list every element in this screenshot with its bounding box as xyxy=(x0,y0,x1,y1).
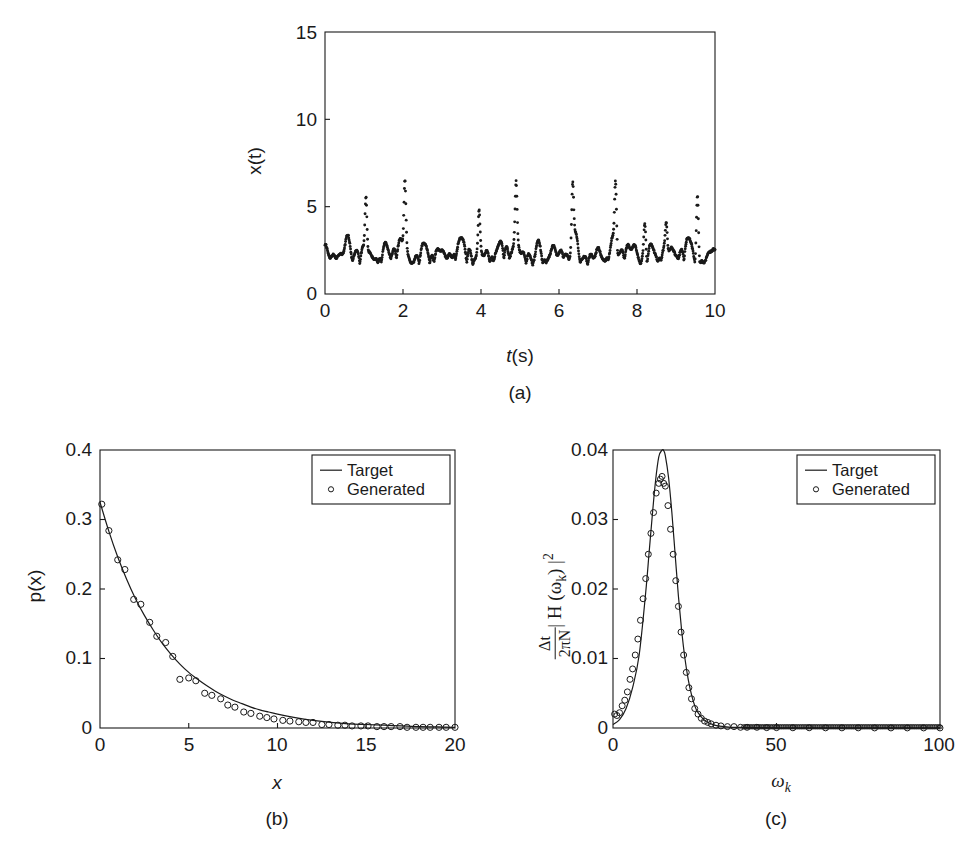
panel-a-plot-area xyxy=(325,32,715,294)
panel-b-xaxis-title: x xyxy=(222,772,332,794)
svg-text:Target: Target xyxy=(347,461,393,479)
panel-a-caption: (a) xyxy=(440,382,600,404)
panel-b-yaxis-title: p(x) xyxy=(24,526,46,646)
panel-a-xtick-10: 10 xyxy=(704,300,725,322)
panel-b-xtick-0: 0 xyxy=(95,734,106,756)
panel-c-yaxis-fraction-numerator: Δt xyxy=(537,628,556,660)
panel-a-ytick-0: 0 xyxy=(272,283,317,305)
figure-canvas: 0 5 10 15 0 2 4 6 8 10 t(s) x(t) (a) Tar… xyxy=(0,0,965,846)
panel-b-ytick-0.2: 0.2 xyxy=(40,578,92,600)
panel-c-yaxis-magnitude-open: | H (ω xyxy=(543,582,564,628)
panel-c-ytick-0: 0 xyxy=(543,717,608,739)
panel-a-xtick-2: 2 xyxy=(398,300,409,322)
panel-b-xtick-10: 10 xyxy=(266,734,287,756)
panel-c-xtick-50: 50 xyxy=(765,734,786,756)
panel-c-ytick-0.04: 0.04 xyxy=(543,439,608,461)
svg-text:Target: Target xyxy=(832,461,878,479)
panel-a-xaxis-title-unit: (s) xyxy=(512,345,534,366)
panel-c-yaxis-title: Δt2πN| H (ωk) |2 xyxy=(537,516,574,696)
panel-b-pdf: TargetGenerated xyxy=(100,450,455,728)
panel-b-xtick-5: 5 xyxy=(184,734,195,756)
panel-a-xtick-8: 8 xyxy=(632,300,643,322)
panel-c-yaxis-magnitude-close: ) | xyxy=(543,560,564,575)
panel-c-xtick-0: 0 xyxy=(608,734,619,756)
panel-c-caption: (c) xyxy=(716,808,836,830)
svg-text:Generated: Generated xyxy=(347,480,425,498)
panel-c-xaxis-omega: ωk xyxy=(771,770,791,791)
panel-a-xtick-6: 6 xyxy=(554,300,565,322)
panel-a-xaxis-title: t(s) xyxy=(425,345,615,367)
panel-a-ytick-15: 15 xyxy=(272,22,317,44)
panel-c-yaxis-magnitude-sub: k xyxy=(553,575,568,582)
panel-b-ytick-0: 0 xyxy=(40,717,92,739)
panel-b-xaxis-title-var: x xyxy=(272,772,282,793)
panel-b-caption: (b) xyxy=(217,808,337,830)
panel-a-xtick-4: 4 xyxy=(476,300,487,322)
panel-a-yaxis-title-arg: (t) xyxy=(244,147,265,165)
panel-c-psd: TargetGenerated xyxy=(613,450,940,728)
panel-a-yaxis-title-var: x xyxy=(244,165,265,175)
svg-text:Generated: Generated xyxy=(832,480,910,498)
panel-a-xtick-0: 0 xyxy=(320,300,331,322)
panel-b-xtick-15: 15 xyxy=(355,734,376,756)
panel-c-yaxis-magnitude: | H (ωk) |2 xyxy=(543,553,564,627)
panel-c-xaxis-omega-sub: k xyxy=(785,780,791,795)
panel-c-xaxis-omega-sym: ω xyxy=(771,770,784,791)
panel-b-ytick-0.3: 0.3 xyxy=(40,508,92,530)
panel-b-ytick-0.1: 0.1 xyxy=(40,647,92,669)
panel-c-plot-area: TargetGenerated xyxy=(613,450,940,728)
panel-c-yaxis-fraction-denominator: 2πN xyxy=(556,628,574,660)
panel-a-ytick-10: 10 xyxy=(272,109,317,131)
panel-b-yaxis-title-arg: (x) xyxy=(24,570,45,592)
panel-c-yaxis-fraction: Δt2πN xyxy=(537,628,574,660)
panel-c-xaxis-title: ωk xyxy=(726,770,836,796)
panel-b-plot-area: TargetGenerated xyxy=(100,450,455,728)
panel-c-xtick-100: 100 xyxy=(923,734,955,756)
panel-c-yaxis-magnitude-power: 2 xyxy=(541,553,556,560)
panel-b-xtick-20: 20 xyxy=(444,734,465,756)
panel-b-yaxis-title-var: p xyxy=(24,592,45,603)
panel-a-ytick-5: 5 xyxy=(272,196,317,218)
panel-a-yaxis-title: x(t) xyxy=(244,101,266,221)
panel-b-ytick-0.4: 0.4 xyxy=(40,439,92,461)
panel-a-timeseries xyxy=(325,32,715,294)
